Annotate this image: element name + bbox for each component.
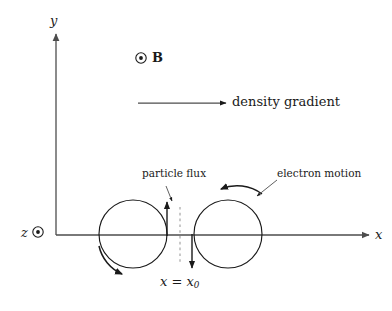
particle-flux-leader-line	[166, 186, 172, 201]
b-field-label: B	[152, 51, 163, 64]
subscript-zero: 0	[194, 280, 200, 290]
diagram-canvas	[0, 0, 392, 311]
electron-motion-label: electron motion	[277, 168, 361, 179]
right-orbit-rotation-arrow	[221, 186, 262, 194]
particle-flux-label: particle flux	[142, 168, 206, 179]
right-electron-orbit	[194, 200, 262, 268]
x-axis-label: x	[375, 228, 382, 241]
left-electron-orbit	[99, 200, 167, 268]
b-field-out-of-page-icon	[136, 53, 146, 63]
electron-motion-leader-line	[257, 180, 277, 196]
z-axis-label: z	[21, 226, 28, 239]
density-gradient-label: density gradient	[232, 95, 340, 108]
z-axis-out-of-page-icon	[33, 227, 43, 237]
equals-symbol: =	[167, 274, 186, 289]
x-equals-x0-label: x = x0	[160, 275, 199, 290]
physics-diagram-figure: y x z B density gradient particle flux e…	[0, 0, 392, 311]
x-symbol-right: x	[187, 274, 194, 289]
y-axis-label: y	[50, 14, 57, 27]
